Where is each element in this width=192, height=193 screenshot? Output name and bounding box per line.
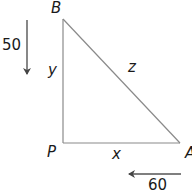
rate-60-label: 60 [148, 178, 167, 193]
rate-50-label: 50 [2, 38, 21, 53]
side-z [63, 19, 180, 143]
side-x-label: x [112, 147, 121, 162]
triangle-diagram [0, 0, 192, 193]
vertex-b-label: B [51, 1, 61, 16]
vertex-p-label: P [47, 145, 56, 160]
vertex-a-label: A [185, 146, 192, 161]
side-y-label: y [48, 63, 57, 78]
side-z-label: z [128, 60, 136, 75]
